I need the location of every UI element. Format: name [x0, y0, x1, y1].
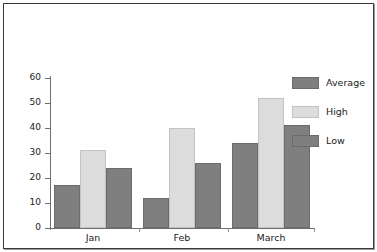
legend-swatch-high-icon — [292, 106, 319, 118]
legend-label-low: Low — [326, 135, 345, 147]
legend-row-average[interactable]: Average — [292, 76, 372, 97]
bar-march-high[interactable] — [258, 98, 284, 228]
y-tick-label-40: 40 — [1, 123, 41, 132]
bar-group-feb — [143, 78, 221, 228]
legend-row-low[interactable]: Low — [292, 134, 372, 155]
x-axis-label-feb: Feb — [143, 232, 221, 243]
legend-label-high: High — [326, 106, 348, 118]
legend-label-average: Average — [326, 77, 365, 89]
x-tick-1 — [139, 228, 140, 232]
legend-swatch-average-icon — [292, 77, 319, 89]
x-axis-label-march: March — [232, 232, 310, 243]
legend-row-high[interactable]: High — [292, 105, 372, 126]
bar-feb-high[interactable] — [169, 128, 195, 228]
bar-feb-average[interactable] — [143, 198, 169, 228]
y-tick-label-10: 10 — [1, 198, 41, 207]
x-tick-3 — [314, 228, 315, 232]
bar-march-average[interactable] — [232, 143, 258, 228]
y-axis-ticks: 60 50 40 30 20 10 0 — [0, 0, 50, 252]
bar-group-jan — [54, 78, 132, 228]
y-tick-label-0: 0 — [1, 223, 41, 232]
chart-legend: Average High Low — [292, 76, 372, 163]
y-tick-label-20: 20 — [1, 173, 41, 182]
bar-jan-average[interactable] — [54, 185, 80, 228]
x-tick-2 — [228, 228, 229, 232]
y-tick-label-30: 30 — [1, 148, 41, 157]
bar-jan-high[interactable] — [80, 150, 106, 228]
bar-feb-low[interactable] — [195, 163, 221, 228]
bar-jan-low[interactable] — [106, 168, 132, 228]
plot-area — [50, 78, 315, 228]
legend-swatch-low-icon — [292, 135, 319, 147]
x-axis-label-jan: Jan — [54, 232, 132, 243]
y-tick-label-50: 50 — [1, 98, 41, 107]
x-axis-line — [50, 228, 315, 229]
y-tick-label-60: 60 — [1, 73, 41, 82]
chart-frame: 60 50 40 30 20 10 0 — [0, 0, 377, 252]
y-tick-0 — [45, 228, 50, 229]
